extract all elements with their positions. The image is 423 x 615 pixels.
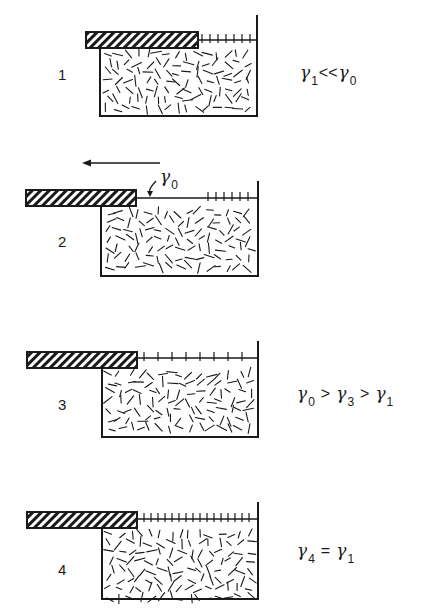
arrowhead-icon [82, 160, 91, 167]
barrier [27, 512, 137, 528]
gamma-symbol: γ0 [339, 62, 357, 82]
operator: > [360, 385, 369, 402]
subphase-liquid [103, 49, 251, 115]
panel-4 [27, 502, 258, 603]
operator: > [321, 385, 330, 402]
surface-tension-relation: γ0>γ3>γ1 [297, 383, 393, 409]
surface-film [144, 352, 242, 361]
subphase-liquid [104, 367, 254, 433]
panel-number: 2 [58, 233, 66, 250]
operator: = [321, 542, 330, 559]
surface-tension-relation: γ1<<γ0 [300, 62, 356, 88]
barrier [27, 352, 137, 368]
panel-number: 4 [58, 561, 66, 578]
gamma-symbol: γ1 [300, 62, 318, 82]
panel-3 [27, 341, 258, 437]
panel-number: 1 [58, 66, 66, 83]
panel-number: 3 [58, 396, 66, 413]
langmuir-trough-diagram [0, 0, 423, 615]
gamma-symbol: γ0 [160, 166, 178, 186]
barrier [86, 32, 198, 48]
barrier [26, 190, 136, 206]
surface-tension-annotation: γ0 [160, 166, 178, 192]
subphase-liquid [106, 206, 256, 273]
gamma-symbol: γ0 [297, 383, 315, 403]
operator: << [319, 64, 338, 81]
panel-2 [26, 160, 258, 277]
gamma-symbol: γ1 [336, 540, 354, 560]
surface-tension-relation: γ4=γ1 [297, 540, 354, 566]
subphase-liquid [104, 529, 258, 603]
gamma-symbol: γ3 [336, 383, 354, 403]
gamma-symbol: γ1 [375, 383, 393, 403]
surface-film [144, 513, 249, 522]
panel-1 [86, 15, 257, 116]
surface-film [202, 34, 250, 43]
surface-film [208, 192, 248, 201]
gamma-symbol: γ4 [297, 540, 315, 560]
